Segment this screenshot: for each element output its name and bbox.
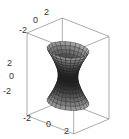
surface-patch: [70, 98, 75, 102]
surface-patch: [67, 83, 70, 87]
surface-patch: [69, 80, 72, 83]
tick-label: -2: [3, 86, 11, 96]
surface-patch: [70, 102, 75, 106]
surface-patch: [72, 76, 74, 80]
surface-patch: [66, 54, 70, 58]
tick-label: 2: [44, 7, 49, 17]
surface-patch: [66, 102, 71, 107]
surface-patch: [70, 63, 75, 66]
surface-patch: [70, 91, 74, 95]
tick-label: -2: [19, 25, 27, 35]
surface-patch: [66, 98, 70, 102]
x-axis-ticks: -2 0 2: [23, 113, 69, 136]
surface-patch: [70, 66, 74, 69]
box-edge: [74, 119, 109, 134]
hyperboloid-surface: [47, 42, 89, 111]
surface-patch: [60, 105, 66, 110]
surface-patch: [71, 106, 77, 110]
surface-patch: [66, 68, 70, 71]
surface-patch: [65, 58, 71, 61]
surface-patch: [70, 87, 73, 91]
surface-patch: [65, 106, 71, 111]
tick-label: 0: [9, 71, 14, 81]
surface-patch: [71, 58, 77, 61]
surface-patch: [66, 94, 70, 98]
surface-patch: [72, 80, 74, 84]
surface-patch: [65, 42, 71, 47]
tick-label: 2: [64, 126, 69, 136]
surface-patch: [69, 74, 72, 77]
y-axis-top-ticks: -2 0 2: [19, 7, 49, 35]
surface-patch: [66, 50, 70, 54]
z-axis-ticks: 2 0 -2: [3, 58, 14, 96]
surface-patch: [67, 71, 70, 74]
surface-patch: [66, 90, 70, 94]
surface-patch: [69, 83, 72, 87]
tick-label: 2: [7, 58, 12, 68]
surface-patch: [67, 80, 70, 84]
surface-patch: [67, 74, 70, 77]
box-edge: [62, 18, 109, 36]
surface-patch: [69, 77, 72, 80]
surface-patch: [67, 87, 70, 91]
surface-patch: [67, 77, 70, 80]
surface-patch: [64, 83, 67, 87]
surface-patch: [70, 71, 73, 74]
tick-label: -2: [23, 113, 31, 123]
surface-plot: -2 0 2 2 0 -2 -2 0 2: [0, 0, 129, 139]
surface-patch: [70, 94, 74, 98]
surface-patch: [70, 61, 75, 64]
tick-label: 0: [46, 119, 51, 129]
tick-label: 0: [33, 15, 38, 25]
surface-patch: [65, 46, 70, 51]
surface-patch: [70, 68, 74, 71]
